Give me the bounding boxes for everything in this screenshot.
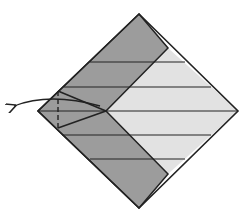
diagram-canvas: [0, 0, 248, 209]
origami-diagram: [0, 0, 248, 209]
